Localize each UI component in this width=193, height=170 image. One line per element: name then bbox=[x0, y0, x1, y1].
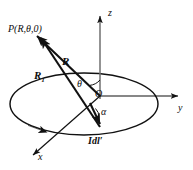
field-point-label: P(R,θ,0) bbox=[8, 24, 42, 34]
physics-diagram-figure: z y x P(R,θ,0) R R1 θ O α Idl′ bbox=[0, 0, 193, 170]
angle-theta-arc bbox=[90, 80, 100, 85]
vector-R1-label: R1 bbox=[34, 70, 45, 84]
loop-direction-arrow-icon bbox=[28, 125, 44, 131]
vector-R bbox=[41, 38, 100, 127]
current-element-label: Idl′ bbox=[88, 136, 102, 146]
vector-R-label: R bbox=[62, 56, 69, 67]
angle-theta-label: θ bbox=[77, 79, 82, 89]
x-axis-label: x bbox=[38, 152, 42, 162]
z-axis-label: z bbox=[108, 8, 112, 18]
angle-alpha-label: α bbox=[101, 107, 106, 117]
origin-label: O bbox=[95, 89, 102, 99]
vector-R1-subscript: 1 bbox=[41, 76, 45, 84]
y-axis-label: y bbox=[178, 103, 182, 113]
